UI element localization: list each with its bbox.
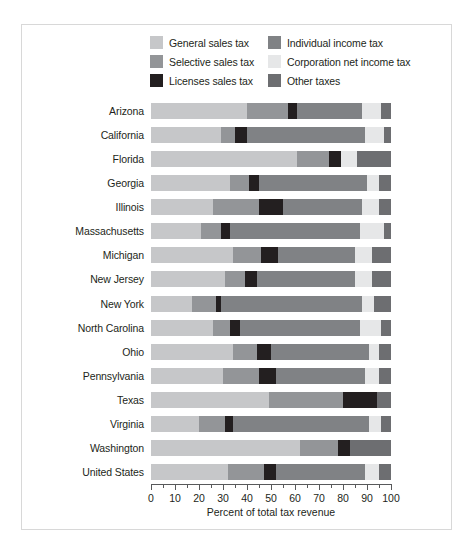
bar-segment [381, 320, 391, 336]
bar-segment [338, 440, 350, 456]
x-axis-major-tick [199, 484, 200, 490]
bar-segment [367, 175, 379, 191]
legend-item-label: General sales tax [169, 37, 249, 49]
bar-segment [221, 223, 231, 239]
legend-swatch-icon [150, 36, 163, 49]
x-axis-major-tick [295, 484, 296, 490]
bar-segment [300, 440, 338, 456]
x-axis-minor-tick [259, 484, 260, 488]
bar-segment [374, 296, 391, 312]
bar-row: Florida [151, 151, 391, 167]
chart-figure: General sales taxIndividual income taxSe… [21, 24, 452, 530]
bar-segment [372, 247, 391, 263]
bar-segment [276, 368, 365, 384]
bar-segment [259, 199, 283, 215]
y-axis-tick-label: Virginia [110, 418, 144, 430]
bar-segment [360, 320, 382, 336]
bar-segment [329, 151, 341, 167]
bar-segment [247, 127, 365, 143]
bar-segment [245, 271, 257, 287]
x-axis-major-tick [247, 484, 248, 490]
bar-segment [151, 392, 269, 408]
bar-segment [379, 175, 391, 191]
bar-row: New York [151, 296, 391, 312]
y-axis-tick-label: Massachusetts [75, 225, 144, 237]
bar-row: Virginia [151, 416, 391, 432]
legend-swatch-icon [150, 55, 163, 68]
bar-segment [355, 247, 372, 263]
bar-segment [151, 368, 223, 384]
bar-row: Pennsylvania [151, 368, 391, 384]
bar-segment [365, 127, 384, 143]
bar-segment [199, 416, 225, 432]
bar-segment [151, 271, 225, 287]
bar-segment [350, 440, 391, 456]
x-axis-minor-tick [187, 484, 188, 488]
legend-item-label: Individual income tax [287, 37, 383, 49]
y-axis-tick-label: Florida [113, 153, 144, 165]
plot-area: ArizonaCaliforniaFloridaGeorgiaIllinoisM… [151, 99, 391, 484]
bar-segment [201, 223, 220, 239]
bar-row: Arizona [151, 103, 391, 119]
bar-segment [151, 199, 213, 215]
bar-segment [151, 247, 233, 263]
x-axis-tick-label: 20 [193, 492, 205, 504]
bar-row: Illinois [151, 199, 391, 215]
bar-segment [151, 223, 201, 239]
x-axis-major-tick [343, 484, 344, 490]
bar-segment [151, 464, 228, 480]
x-axis-tick-label: 10 [169, 492, 181, 504]
x-axis-minor-tick [211, 484, 212, 488]
x-axis-tick-label: 60 [289, 492, 301, 504]
bar-row: Texas [151, 392, 391, 408]
y-axis-tick-label: Washington [90, 442, 144, 454]
x-axis-tick-label: 100 [382, 492, 400, 504]
bar-segment [230, 175, 249, 191]
legend-item: Licenses sales tax [150, 74, 268, 87]
bar-segment [151, 320, 213, 336]
bar-segment [221, 296, 363, 312]
x-axis-minor-tick [235, 484, 236, 488]
bar-segment [223, 368, 259, 384]
bar-segment [381, 416, 391, 432]
bar-row: Georgia [151, 175, 391, 191]
x-axis-major-tick [271, 484, 272, 490]
bar-segment [278, 247, 355, 263]
chart-legend: General sales taxIndividual income taxSe… [150, 33, 418, 90]
bar-row: United States [151, 464, 391, 480]
bar-segment [228, 464, 264, 480]
bar-segment [264, 464, 276, 480]
bar-segment [213, 320, 230, 336]
bar-row: Ohio [151, 344, 391, 360]
bar-segment [261, 247, 278, 263]
x-axis-major-tick [367, 484, 368, 490]
x-axis-tick-label: 50 [265, 492, 277, 504]
y-axis-tick-label: California [101, 129, 144, 141]
y-axis-tick-label: Georgia [107, 177, 144, 189]
x-axis-tick-label: 90 [361, 492, 373, 504]
bar-segment [235, 127, 247, 143]
x-axis-major-tick [151, 484, 152, 490]
bar-segment [192, 296, 216, 312]
bar-segment [379, 199, 391, 215]
bar-segment [233, 247, 262, 263]
legend-item: General sales tax [150, 36, 268, 49]
bar-segment [365, 464, 379, 480]
legend-item-label: Other taxes [287, 75, 340, 87]
bar-segment [240, 320, 360, 336]
bar-row: Washington [151, 440, 391, 456]
x-axis-minor-tick [355, 484, 356, 488]
bar-segment [213, 199, 259, 215]
bar-segment [379, 344, 391, 360]
y-axis-tick-label: Pennsylvania [83, 370, 144, 382]
bar-segment [233, 416, 370, 432]
legend-item-label: Licenses sales tax [169, 75, 253, 87]
bar-segment [276, 464, 365, 480]
legend-swatch-icon [268, 74, 281, 87]
x-axis-major-tick [223, 484, 224, 490]
bar-segment [362, 296, 374, 312]
legend-item-label: Corporation net income tax [287, 56, 410, 68]
legend-item: Other taxes [268, 74, 418, 87]
bar-segment [225, 416, 232, 432]
bar-segment [230, 320, 240, 336]
